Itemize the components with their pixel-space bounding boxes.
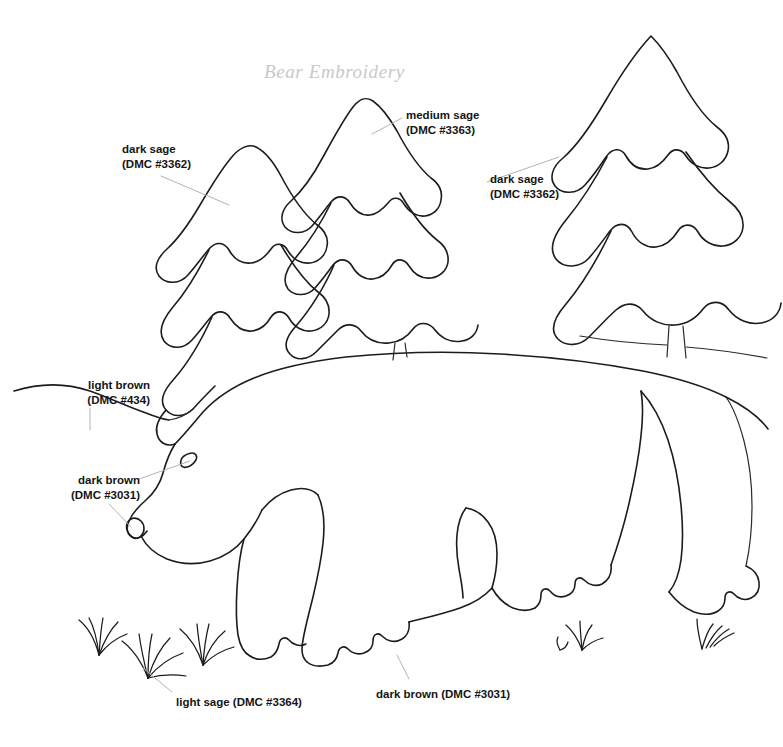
tree-right	[552, 36, 781, 358]
grass-tufts	[79, 618, 734, 678]
leader-lines	[90, 118, 559, 692]
thread-label-name: light brown	[88, 379, 150, 391]
thread-label-name: dark brown (DMC #3031)	[376, 688, 510, 700]
thread-label-name: dark sage	[490, 173, 544, 185]
thread-label-medium-sage: medium sage (DMC #3363)	[406, 108, 480, 138]
thread-label-code: (DMC #434)	[62, 393, 150, 408]
thread-label-dark-sage-right: dark sage (DMC #3362)	[490, 172, 559, 202]
grass-tuft-2	[122, 634, 186, 678]
grass-tuft-3	[180, 624, 234, 665]
thread-label-name: light sage (DMC #3364)	[176, 696, 302, 708]
thread-label-dark-brown-paw: dark brown (DMC #3031)	[376, 687, 510, 702]
pattern-artwork	[0, 0, 783, 747]
page-title: Bear Embroidery	[264, 61, 405, 83]
pattern-sheet: Bear Embroidery dark sage (DMC #3362) me…	[0, 0, 783, 747]
thread-label-light-brown: light brown (DMC #434)	[62, 378, 150, 408]
tree-back-left	[156, 146, 329, 445]
grass-tuft-1	[79, 618, 127, 655]
thread-label-name: dark brown	[78, 474, 140, 486]
leader-dark-brown-paw	[397, 655, 409, 679]
grass-tuft-4	[557, 621, 603, 650]
grass-tuft-5	[697, 619, 734, 649]
leader-dark-sage-left	[161, 176, 229, 205]
thread-label-name: medium sage	[406, 109, 480, 121]
thread-label-dark-brown-head: dark brown (DMC #3031)	[44, 473, 140, 503]
thread-label-light-sage-grass: light sage (DMC #3364)	[176, 695, 302, 710]
thread-label-dark-sage-left: dark sage (DMC #3362)	[122, 142, 191, 172]
leader-dark-brown-head	[139, 461, 190, 479]
thread-label-name: dark sage	[122, 143, 176, 155]
thread-label-code: (DMC #3031)	[44, 488, 140, 503]
leader-dark-brown-nose	[109, 504, 131, 527]
thread-label-code: (DMC #3362)	[490, 187, 559, 202]
leader-light-sage	[143, 668, 172, 692]
thread-label-code: (DMC #3362)	[122, 157, 191, 172]
thread-label-code: (DMC #3363)	[406, 123, 480, 138]
bear-outline	[127, 352, 768, 666]
